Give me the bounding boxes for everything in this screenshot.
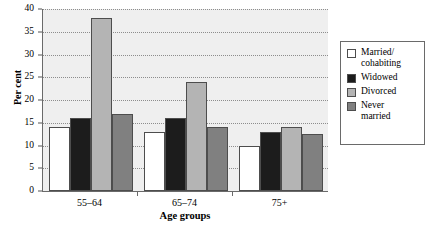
legend-label: Married/ cohabiting: [361, 47, 401, 69]
legend-swatch-icon: [347, 102, 356, 111]
legend-item: Never married: [347, 100, 420, 122]
legend-item: Divorced: [347, 86, 420, 97]
y-tick-label: 10: [25, 141, 35, 151]
x-tick-label: 55–64: [77, 197, 102, 208]
bar: [239, 146, 260, 192]
bar: [49, 127, 70, 191]
y-tick-label: 30: [25, 50, 35, 60]
legend-label: Divorced: [361, 86, 396, 97]
y-tick-label: 20: [25, 95, 35, 105]
x-axis-title: Age groups: [42, 210, 328, 221]
y-tick-label: 25: [25, 73, 35, 83]
legend-swatch-icon: [347, 49, 356, 58]
bar: [91, 18, 112, 191]
y-tick-label: 0: [29, 186, 34, 196]
bar: [207, 127, 228, 191]
bar-group: [43, 9, 138, 191]
legend: Married/ cohabitingWidowedDivorcedNever …: [340, 41, 425, 145]
legend-swatch-icon: [347, 74, 356, 83]
bar-group: [138, 9, 233, 191]
x-tick-mark: [137, 191, 138, 196]
legend-item: Married/ cohabiting: [347, 47, 420, 69]
bar: [281, 127, 302, 191]
y-tick-label: 5: [29, 164, 34, 174]
bar: [112, 114, 133, 191]
bar: [186, 82, 207, 191]
bar-groups: [43, 9, 328, 191]
y-axis-ticks: 0510152025303540: [16, 9, 38, 191]
bar: [144, 132, 165, 191]
x-tick-label: 75+: [272, 197, 288, 208]
bar: [302, 134, 323, 191]
bar: [260, 132, 281, 191]
bar: [165, 118, 186, 191]
legend-item: Widowed: [347, 72, 420, 83]
y-tick-label: 40: [25, 4, 35, 14]
y-tick-label: 15: [25, 118, 35, 128]
x-tick-label: 65–74: [172, 197, 197, 208]
plot-area: [42, 9, 328, 192]
y-tick-label: 35: [25, 27, 35, 37]
legend-label: Never married: [361, 100, 391, 122]
bar-group: [233, 9, 328, 191]
bar-chart-figure: Per cent 0510152025303540 55–6465–7475+ …: [0, 0, 431, 232]
bar: [70, 118, 91, 191]
legend-label: Widowed: [361, 72, 398, 83]
x-tick-mark: [232, 191, 233, 196]
legend-swatch-icon: [347, 88, 356, 97]
